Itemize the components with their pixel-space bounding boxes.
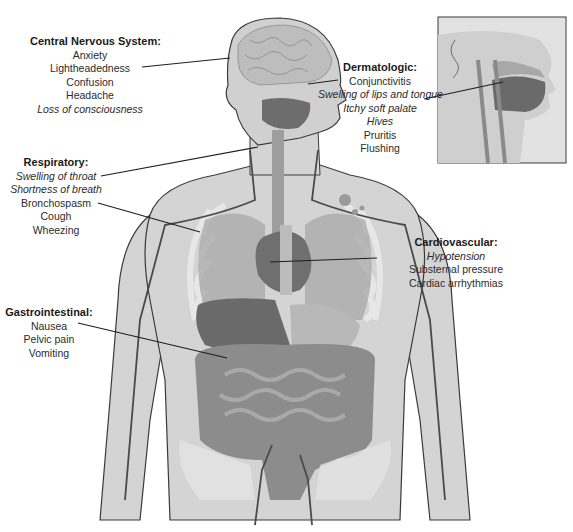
anatomy-figure: Central Nervous System: Anxiety Lighthea… (0, 0, 573, 532)
label-cardiovascular-title: Cardiovascular: (396, 236, 516, 250)
symptom-pelvic-pain: Pelvic pain (4, 333, 94, 347)
symptom-confusion: Confusion (30, 76, 150, 90)
symptom-headache: Headache (30, 89, 150, 103)
symptom-vomiting: Vomiting (4, 347, 94, 361)
label-cns-title: Central Nervous System: (30, 35, 150, 49)
symptom-cardiac-arrhythmias: Cardiac arrhythmias (396, 277, 516, 291)
label-dermatologic: Dermatologic: Conjunctivitis Swelling of… (318, 61, 442, 156)
symptom-bronchospasm: Bronchospasm (10, 197, 102, 211)
sternum (280, 225, 292, 295)
symptom-wheezing: Wheezing (10, 224, 102, 238)
label-respiratory-title: Respiratory: (10, 156, 102, 170)
symptom-lightheadedness: Lightheadedness (30, 62, 150, 76)
symptom-substernal-pressure: Substernal pressure (396, 263, 516, 277)
symptom-hives: Hives (318, 115, 442, 129)
symptom-nausea: Nausea (4, 320, 94, 334)
symptom-swelling-throat: Swelling of throat (10, 170, 102, 184)
label-gastrointestinal: Gastrointestinal: Nausea Pelvic pain Vom… (4, 306, 94, 360)
symptom-itchy-soft-palate: Itchy soft palate (318, 102, 442, 116)
label-gastrointestinal-title: Gastrointestinal: (4, 306, 94, 320)
inset-soft-palate (438, 17, 566, 163)
symptom-hypotension: Hypotension (396, 250, 516, 264)
symptom-swelling-lips-tongue: Swelling of lips and tongue (318, 88, 442, 102)
symptom-conjunctivitis: Conjunctivitis (318, 75, 442, 89)
symptom-pruritis: Pruritis (318, 129, 442, 143)
label-dermatologic-title: Dermatologic: (318, 61, 442, 75)
symptom-cough: Cough (10, 210, 102, 224)
symptom-loss-of-consciousness: Loss of consciousness (30, 103, 150, 117)
label-cardiovascular: Cardiovascular: Hypotension Substernal p… (396, 236, 516, 290)
leader-cns (142, 58, 230, 67)
label-cns: Central Nervous System: Anxiety Lighthea… (30, 35, 150, 116)
symptom-anxiety: Anxiety (30, 49, 150, 63)
symptom-flushing: Flushing (318, 142, 442, 156)
symptom-shortness-of-breath: Shortness of breath (10, 183, 102, 197)
label-respiratory: Respiratory: Swelling of throat Shortnes… (10, 156, 102, 237)
